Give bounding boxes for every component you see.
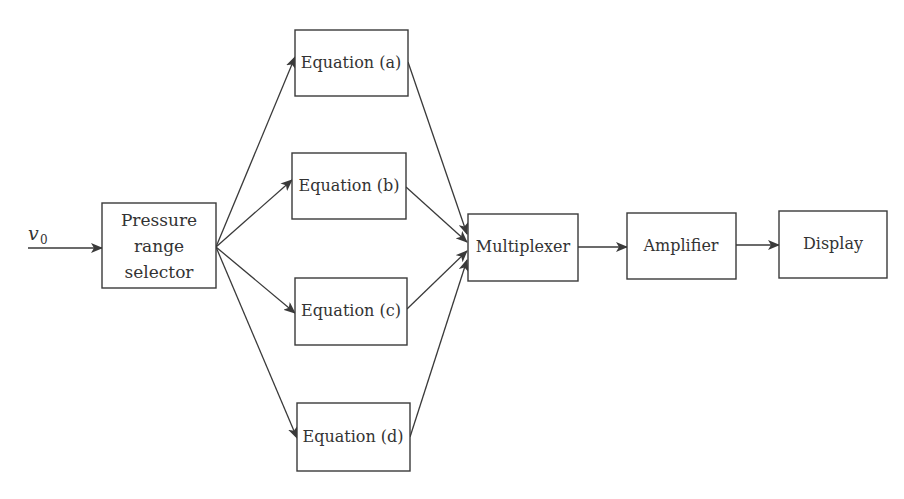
input-subscript: 0 <box>40 233 48 247</box>
block-diagram: v 0 Pressure range selector Equation (a)… <box>0 0 904 499</box>
amplifier-label: Amplifier <box>643 236 719 255</box>
equation-d-label: Equation (d) <box>302 427 403 446</box>
edge-eq-d-to-mux <box>410 260 467 437</box>
block-display: Display <box>779 211 887 278</box>
edge-selector-to-eq-c <box>216 247 295 313</box>
equation-b-label: Equation (b) <box>298 176 399 195</box>
edge-selector-to-eq-d <box>216 247 297 438</box>
input-symbol: v <box>28 222 39 244</box>
selector-label-line-1: Pressure <box>121 210 197 230</box>
block-amplifier: Amplifier <box>627 213 736 279</box>
equation-c-label: Equation (c) <box>301 301 401 320</box>
edge-eq-b-to-mux <box>406 187 467 242</box>
edge-eq-a-to-mux <box>408 62 467 234</box>
edge-selector-to-eq-a <box>216 57 295 247</box>
selector-label-line-2: range <box>134 236 184 256</box>
block-equation-b: Equation (b) <box>292 153 406 219</box>
block-equation-a: Equation (a) <box>295 30 408 96</box>
input-label: v 0 <box>28 222 48 247</box>
edge-eq-c-to-mux <box>407 251 467 309</box>
equation-a-label: Equation (a) <box>301 53 401 72</box>
block-equation-d: Equation (d) <box>297 403 410 471</box>
display-label: Display <box>803 234 863 253</box>
selector-label-line-3: selector <box>125 262 195 282</box>
edge-selector-to-eq-b <box>216 180 292 247</box>
block-multiplexer: Multiplexer <box>468 214 578 281</box>
block-pressure-range-selector: Pressure range selector <box>102 203 216 288</box>
multiplexer-label: Multiplexer <box>476 237 571 256</box>
block-equation-c: Equation (c) <box>295 278 407 345</box>
